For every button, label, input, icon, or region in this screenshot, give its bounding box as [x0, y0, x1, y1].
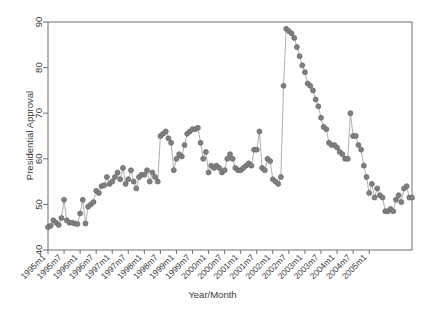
series-line	[48, 29, 412, 227]
data-point	[356, 143, 361, 148]
data-point	[391, 209, 396, 214]
data-point	[361, 163, 366, 168]
data-point	[75, 222, 80, 227]
data-point	[278, 175, 283, 180]
data-point	[369, 181, 374, 186]
data-point	[123, 181, 128, 186]
y-axis-title: Presidential Approval	[24, 51, 35, 221]
data-point	[396, 193, 401, 198]
data-point	[102, 183, 107, 188]
data-point	[134, 186, 139, 191]
data-point	[294, 45, 299, 50]
data-point	[348, 111, 353, 116]
data-point	[179, 154, 184, 159]
data-point	[155, 179, 160, 184]
data-point	[276, 181, 281, 186]
data-point	[171, 168, 176, 173]
data-point	[225, 156, 230, 161]
data-point	[335, 145, 340, 150]
data-point	[169, 140, 174, 145]
data-point	[292, 35, 297, 40]
data-point	[217, 165, 222, 170]
data-point	[308, 83, 313, 88]
data-point	[289, 31, 294, 36]
data-point	[115, 170, 120, 175]
data-point	[145, 168, 150, 173]
y-tick-label: 90	[33, 17, 44, 28]
presidential-approval-chart: 4050607080901995m11995m71996m11996m71997…	[0, 0, 425, 310]
data-point	[48, 223, 53, 228]
data-point	[150, 170, 155, 175]
data-point	[375, 186, 380, 191]
data-point	[345, 156, 350, 161]
data-point	[80, 197, 85, 202]
data-point	[410, 195, 415, 200]
data-point	[372, 195, 377, 200]
data-point	[147, 179, 152, 184]
data-point	[319, 115, 324, 120]
data-point	[206, 170, 211, 175]
data-point	[297, 54, 302, 59]
data-point	[120, 165, 125, 170]
data-point	[201, 156, 206, 161]
data-point	[230, 156, 235, 161]
data-point	[104, 175, 109, 180]
data-point	[153, 175, 158, 180]
data-point	[254, 147, 259, 152]
data-point	[62, 197, 67, 202]
x-axis-title: Year/Month	[0, 289, 425, 300]
data-point	[393, 197, 398, 202]
data-point	[128, 168, 133, 173]
data-point	[56, 222, 61, 227]
data-point	[313, 97, 318, 102]
data-point	[228, 152, 233, 157]
data-point	[364, 175, 369, 180]
data-point	[118, 177, 123, 182]
data-point	[110, 179, 115, 184]
chart-plot-area: 4050607080901995m11995m71996m11996m71997…	[0, 0, 425, 310]
data-point	[96, 191, 101, 196]
data-point	[340, 152, 345, 157]
data-point	[174, 156, 179, 161]
data-point	[142, 172, 147, 177]
data-point	[359, 147, 364, 152]
data-point	[59, 216, 64, 221]
data-point	[198, 140, 203, 145]
data-point	[399, 200, 404, 205]
data-point	[310, 88, 315, 93]
data-point	[83, 221, 88, 226]
data-point	[203, 149, 208, 154]
data-point	[182, 143, 187, 148]
data-point	[300, 63, 305, 68]
data-point	[222, 168, 227, 173]
data-point	[324, 127, 329, 132]
data-point	[257, 129, 262, 134]
data-point	[166, 136, 171, 141]
data-point	[112, 175, 117, 180]
data-point	[302, 70, 307, 75]
data-point	[380, 195, 385, 200]
data-point	[404, 184, 409, 189]
data-point	[262, 168, 267, 173]
data-point	[163, 129, 168, 134]
data-point	[78, 211, 83, 216]
data-point	[249, 163, 254, 168]
data-point	[268, 159, 273, 164]
data-point	[367, 191, 372, 196]
data-point	[91, 200, 96, 205]
data-point	[281, 83, 286, 88]
data-point	[353, 134, 358, 139]
data-point	[126, 177, 131, 182]
data-point	[195, 125, 200, 130]
data-point	[131, 179, 136, 184]
data-point	[316, 104, 321, 109]
